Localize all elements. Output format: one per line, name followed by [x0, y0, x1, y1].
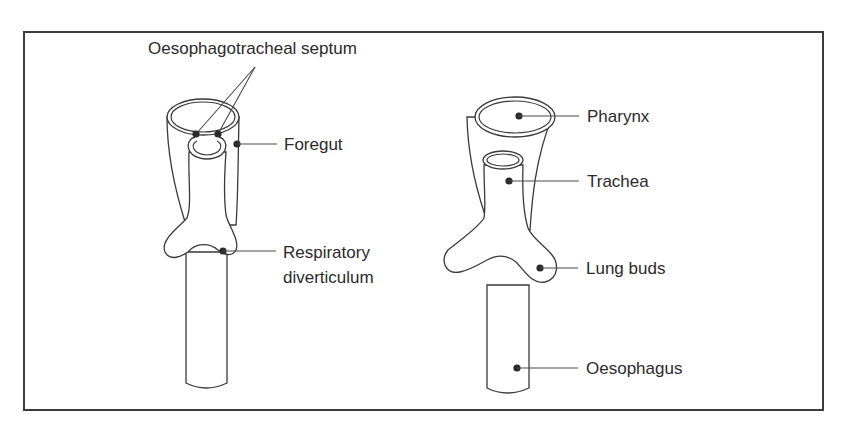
left-top-ring-outer — [167, 99, 239, 135]
label-diverticulum: diverticulum — [283, 268, 374, 287]
label-foregut: Foregut — [284, 135, 343, 154]
marker-septum-right — [214, 130, 221, 137]
left-figure-foregut — [164, 99, 239, 388]
diagram-frame — [24, 32, 823, 410]
label-lung-buds: Lung buds — [586, 259, 665, 278]
diagram-canvas: Oesophagotracheal septum Foregut Respira… — [0, 0, 853, 431]
label-oesophagus: Oesophagus — [586, 359, 682, 378]
label-respiratory: Respiratory — [283, 243, 370, 262]
right-figure-lung-development — [444, 97, 556, 393]
label-oesophagotracheal-septum: Oesophagotracheal septum — [148, 39, 357, 58]
left-oesophagus-tube — [186, 252, 227, 388]
label-pharynx: Pharynx — [587, 107, 650, 126]
right-pharynx-ring-outer — [475, 97, 555, 137]
right-oesophagus-tube — [487, 285, 529, 393]
marker-septum-left — [192, 130, 199, 137]
label-trachea: Trachea — [587, 172, 649, 191]
